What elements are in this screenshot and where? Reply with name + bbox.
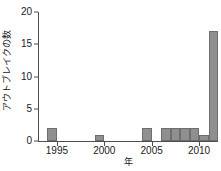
y-axis-tick-label: 10 bbox=[12, 72, 32, 82]
x-axis-tick-label: 1995 bbox=[46, 146, 68, 156]
bar bbox=[47, 128, 56, 141]
y-axis-tick-label: 20 bbox=[12, 7, 32, 17]
bar bbox=[190, 128, 199, 141]
bar bbox=[95, 135, 104, 141]
bar bbox=[209, 31, 218, 141]
x-axis-tick-label: 2000 bbox=[93, 146, 115, 156]
y-axis-tick-label: 15 bbox=[12, 39, 32, 49]
bar bbox=[180, 128, 189, 141]
bar bbox=[142, 128, 151, 141]
y-axis-tick-label: 5 bbox=[12, 104, 32, 114]
bar bbox=[199, 135, 208, 141]
outbreak-bar-chart: アウトブレイクの数 05101520 1995200020052010 年 bbox=[0, 0, 221, 171]
bar bbox=[171, 128, 180, 141]
y-axis-tick-labels: 05101520 bbox=[12, 0, 32, 171]
x-axis-title: 年 bbox=[38, 158, 218, 167]
x-axis-tick-label: 2010 bbox=[188, 146, 210, 156]
plot-area bbox=[38, 12, 218, 141]
y-axis-tick-label: 0 bbox=[12, 136, 32, 146]
bar bbox=[161, 128, 170, 141]
y-axis-title-text: アウトブレイクの数 bbox=[3, 30, 12, 111]
x-axis-tick-label: 2005 bbox=[141, 146, 163, 156]
